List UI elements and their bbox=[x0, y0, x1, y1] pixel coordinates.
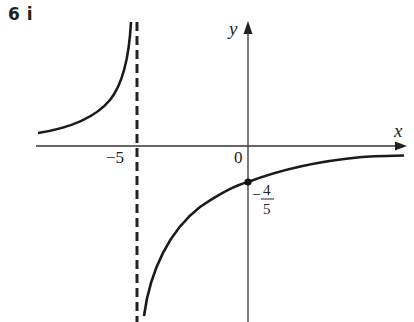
y-axis-label: y bbox=[227, 18, 238, 39]
curve-left-branch bbox=[38, 22, 131, 133]
y-intercept-point bbox=[244, 178, 251, 185]
intercept-numerator: 4 bbox=[263, 182, 271, 198]
curve-right-branch bbox=[144, 156, 404, 317]
x-axis-arrow-icon bbox=[395, 142, 407, 151]
graph: y x 0 −5 − 4 5 bbox=[0, 0, 414, 322]
asymptote-label: −5 bbox=[106, 148, 124, 167]
intercept-denominator: 5 bbox=[263, 201, 271, 217]
intercept-minus: − bbox=[252, 186, 261, 203]
origin-label: 0 bbox=[234, 148, 243, 167]
x-axis-label: x bbox=[393, 120, 403, 141]
y-axis-arrow-icon bbox=[244, 21, 253, 34]
